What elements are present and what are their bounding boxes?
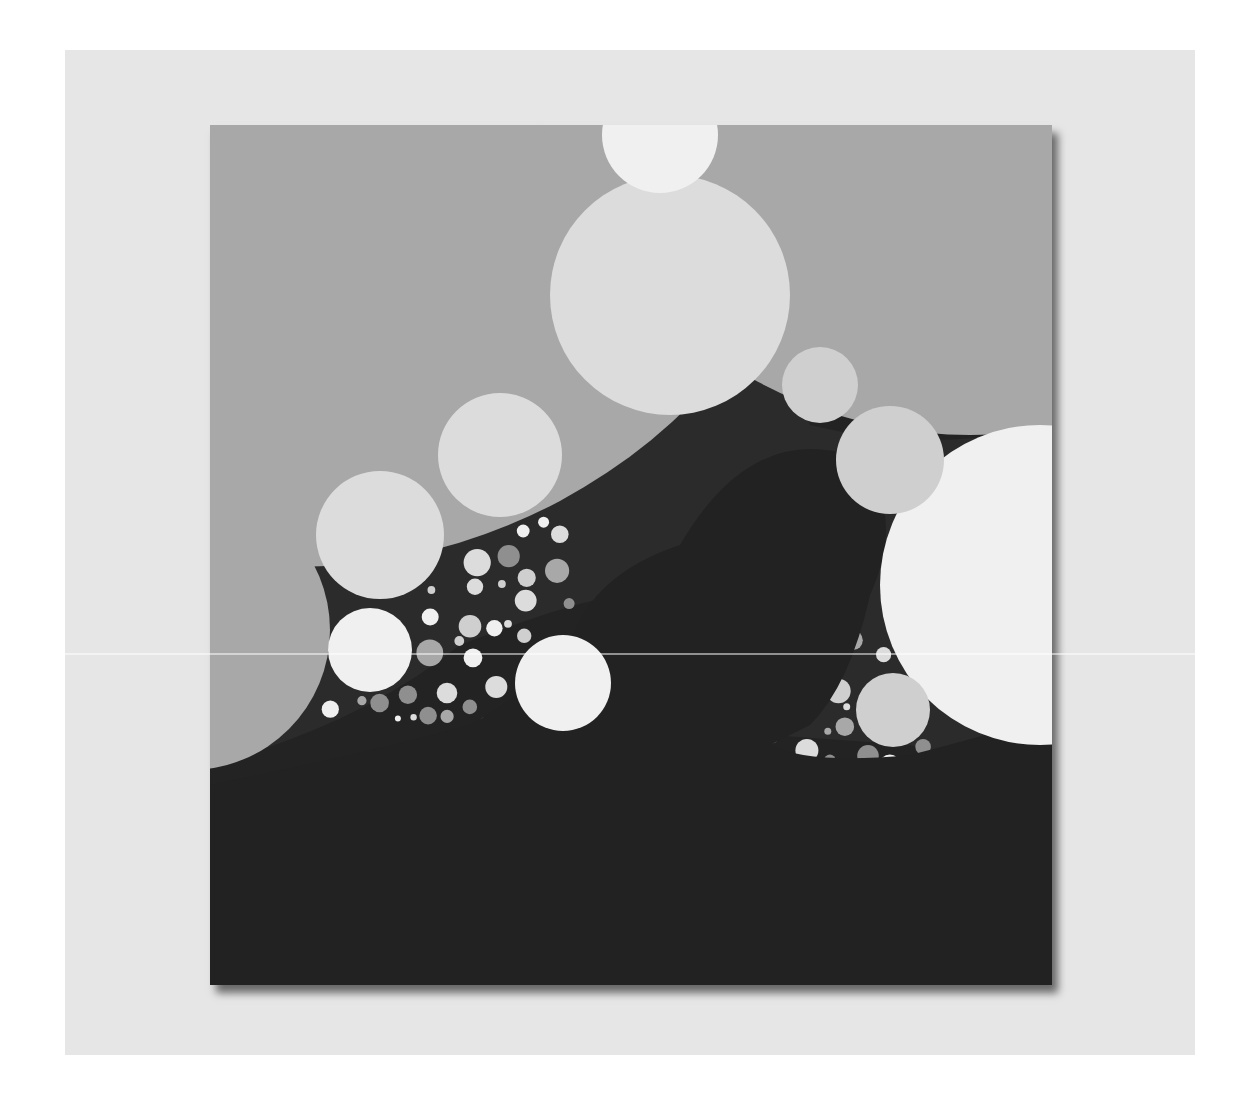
circle-packing-art <box>210 125 1052 985</box>
artwork-canvas <box>210 125 1052 985</box>
scan-seam <box>65 653 1195 655</box>
